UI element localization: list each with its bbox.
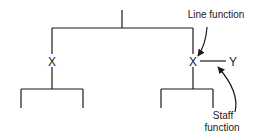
org-chart-diagram: X X Y Line function Staff function <box>0 0 257 140</box>
staff-y-label: Y <box>229 55 237 69</box>
left-x-label: X <box>48 55 56 69</box>
staff-function-annotation-line1: Staff <box>213 110 234 121</box>
line-function-annotation: Line function <box>188 9 245 20</box>
staff-function-annotation-line2: function <box>204 122 239 133</box>
right-x-label: X <box>189 55 197 69</box>
line-function-arrow <box>198 27 207 56</box>
staff-function-arrow <box>218 67 236 112</box>
